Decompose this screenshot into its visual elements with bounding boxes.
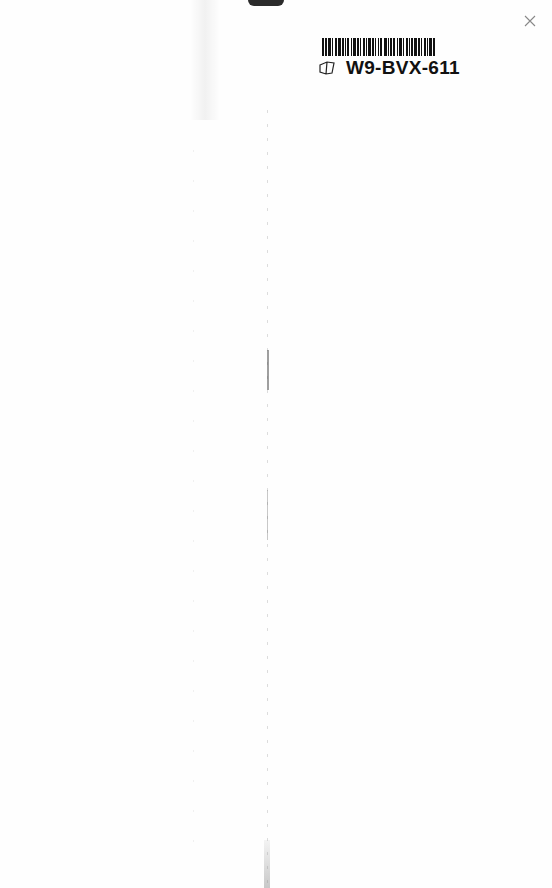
sticker-label-row: W9-BVX-611: [318, 57, 460, 79]
gutter-mark: [267, 490, 268, 540]
page-shadow: [190, 0, 220, 120]
faint-crease: [193, 150, 194, 850]
binding-mark: [248, 0, 284, 6]
gutter-bottom-mark: [264, 840, 270, 888]
gutter-mark: [267, 350, 269, 390]
x-mark-icon: [523, 14, 537, 28]
book-icon: [318, 60, 336, 76]
scanned-page: W9-BVX-611: [0, 0, 552, 888]
barcode-number: W9-BVX-611: [346, 57, 460, 79]
library-barcode-sticker: W9-BVX-611: [318, 36, 483, 86]
barcode-icon: [322, 38, 437, 56]
